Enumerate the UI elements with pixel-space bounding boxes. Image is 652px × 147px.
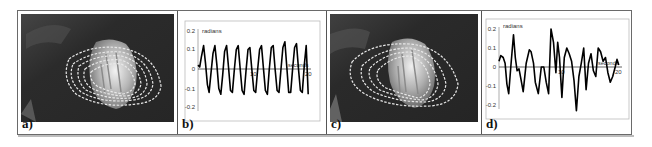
svg-text:0.1: 0.1 [187,46,196,52]
panel-a: a) [18,11,177,134]
photo-c-image [330,14,478,122]
panel-d: 0.2 0.1 0 -0.1 -0.2 radians seconds 10 2… [481,11,633,134]
photo-a [21,14,174,122]
panel-label-b: b) [182,116,194,132]
panel-label-d: d) [486,116,498,132]
svg-text:-0.2: -0.2 [486,102,497,108]
chart-b-ylabel: radians [202,28,222,34]
photo-c [330,14,478,122]
svg-text:0.2: 0.2 [187,28,196,34]
chart-d-xtick-20: 20 [615,69,622,75]
svg-text:-0.2: -0.2 [185,104,196,110]
panel-b: 0.2 0.1 0 -0.1 -0.2 radians seconds 10 2… [177,11,326,134]
photo-a-image [21,14,174,122]
svg-text:-0.1: -0.1 [185,86,196,92]
chart-b: 0.2 0.1 0 -0.1 -0.2 radians seconds 10 2… [178,11,327,136]
chart-d: 0.2 0.1 0 -0.1 -0.2 radians seconds 10 2… [482,11,634,136]
chart-b-xtick-20: 20 [305,71,312,77]
panel-label-a: a) [22,116,33,132]
panel-c: c) [326,11,481,134]
figure-frame: a) 0.2 0.1 0 -0.1 -0.2 radians seconds 1… [17,10,632,135]
chart-b-xtick-10: 10 [250,71,257,77]
svg-text:0.2: 0.2 [488,26,497,32]
chart-d-ylabel: radians [503,23,523,29]
panel-label-c: c) [331,116,341,132]
svg-text:-0.1: -0.1 [486,83,497,89]
svg-text:0.1: 0.1 [488,45,497,51]
